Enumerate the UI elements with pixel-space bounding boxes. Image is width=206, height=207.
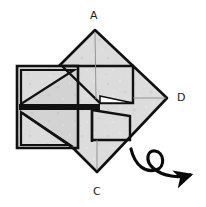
origami-diagram-canvas bbox=[0, 0, 206, 207]
turn-over-arrow-stroke bbox=[131, 149, 190, 177]
origami-figure: A C D bbox=[0, 0, 206, 207]
left-flap-mid-band bbox=[19, 104, 100, 110]
vertex-label-a: A bbox=[90, 10, 98, 21]
vertex-label-c: C bbox=[93, 186, 101, 197]
vertex-label-d: D bbox=[177, 92, 185, 103]
turn-over-arrow-group bbox=[131, 149, 190, 177]
